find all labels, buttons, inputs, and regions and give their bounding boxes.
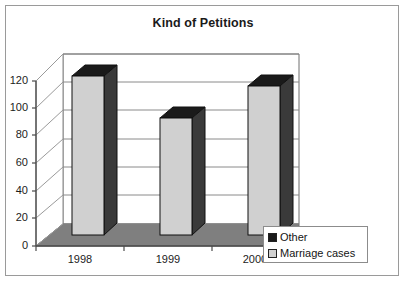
legend-label-other: Other (280, 232, 308, 243)
left-wall (36, 54, 63, 246)
bar-2000-front (248, 86, 280, 235)
bar-2000 (248, 75, 293, 235)
y-tick-80: 80 (0, 128, 28, 140)
legend-swatch-marriage-cases (268, 249, 277, 258)
legend-item-marriage-cases: Marriage cases (268, 245, 367, 261)
y-tick-120: 120 (0, 74, 28, 86)
bar-1998-side (104, 65, 117, 235)
bar-1999-side (192, 107, 205, 235)
bar-1998 (72, 65, 117, 235)
bar-2000-side (280, 75, 293, 235)
y-tick-0: 0 (0, 239, 28, 251)
y-tick-20: 20 (0, 211, 28, 223)
y-tick-60: 60 (0, 156, 28, 168)
legend-label-marriage-cases: Marriage cases (280, 248, 355, 259)
x-tick-1999: 1999 (145, 253, 191, 265)
x-tick-1998: 1998 (57, 253, 103, 265)
x-ticks (36, 246, 299, 251)
bar-1999 (160, 107, 205, 235)
bar-1998-front (72, 76, 104, 235)
legend: Other Marriage cases (263, 226, 368, 263)
y-tick-100: 100 (0, 101, 28, 113)
legend-item-other: Other (268, 229, 367, 245)
chart-frame: Kind of Petitions (5, 5, 399, 276)
legend-swatch-other (268, 233, 277, 242)
bar-1999-front (160, 118, 192, 235)
y-tick-40: 40 (0, 184, 28, 196)
